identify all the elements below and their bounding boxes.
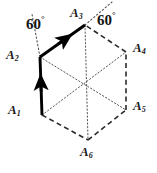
diagonal-a1-a4 xyxy=(42,52,126,115)
vertex-label-a3: A3 xyxy=(70,6,83,19)
bold-vector-group xyxy=(40,25,85,115)
vertex-label-subscript: 1 xyxy=(17,109,21,118)
vertex-label-a1: A1 xyxy=(8,103,21,116)
vertex-label-base: A xyxy=(133,40,142,55)
edge-a6-a5 xyxy=(88,110,126,140)
vertex-label-base: A xyxy=(80,144,89,159)
edge-a1-a6 xyxy=(42,115,88,140)
hexagon-vector-diagram: A1A2A3A4A5A6 60°60° xyxy=(0,0,157,173)
vertex-label-a4: A4 xyxy=(133,41,146,54)
diagram-canvas xyxy=(0,0,157,173)
vertex-label-subscript: 4 xyxy=(142,47,146,56)
degree-symbol-icon: ° xyxy=(112,10,116,20)
vertex-label-base: A xyxy=(70,5,79,20)
vertex-label-subscript: 5 xyxy=(142,105,146,114)
degree-symbol-icon: ° xyxy=(41,14,45,24)
vertex-label-base: A xyxy=(6,47,15,62)
vertex-label-subscript: 2 xyxy=(15,54,19,63)
vector-a1-to-a2 xyxy=(40,57,42,115)
vertex-label-a5: A5 xyxy=(133,99,146,112)
dashed-edge-group xyxy=(42,25,126,140)
angle-right-label: 60° xyxy=(97,12,116,28)
edge-a4-a3 xyxy=(85,25,126,52)
angle-left-label: 60° xyxy=(26,16,45,32)
vector-a2-to-a3 xyxy=(40,25,85,57)
diagonal-a2-a5 xyxy=(40,57,126,110)
vertex-label-a6: A6 xyxy=(80,145,93,158)
angle-value: 60 xyxy=(26,16,41,32)
vertex-label-base: A xyxy=(133,98,142,113)
vertex-label-a2: A2 xyxy=(6,48,19,61)
vertex-label-subscript: 6 xyxy=(89,151,93,160)
dotted-diagonal-group xyxy=(40,25,126,140)
vertex-label-subscript: 3 xyxy=(79,12,83,21)
vertex-label-base: A xyxy=(8,102,17,117)
angle-value: 60 xyxy=(97,12,112,28)
